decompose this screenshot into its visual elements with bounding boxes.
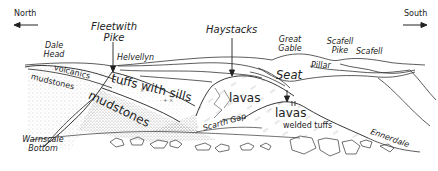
warnscale-bottom-label-line2: Bottom bbox=[18, 145, 68, 153]
north-label: North bbox=[14, 10, 36, 18]
warnscale-bottom-label-line1: Warnscale bbox=[18, 136, 68, 144]
dale-head-label-line2: Head bbox=[36, 51, 72, 59]
fleetwith-pike-label-line2: Pike bbox=[88, 33, 140, 43]
seat-label: Seat bbox=[276, 70, 302, 82]
scafell-pike-label-line2: Pike bbox=[320, 47, 360, 55]
scafell-pike-label-line1: Scafell bbox=[320, 38, 360, 46]
south-label: South bbox=[404, 10, 427, 18]
geology-cross-section: + · × + · + × bbox=[0, 0, 438, 171]
seat-lavas-label: lavas bbox=[275, 107, 306, 119]
scafell-label: Scafell bbox=[356, 48, 383, 56]
south-arrow-icon bbox=[403, 23, 427, 28]
fleetwith-pike-label-line1: Fleetwith bbox=[88, 22, 140, 32]
haystacks-lavas-label: lavas bbox=[229, 92, 260, 104]
great-gable-label-line1: Great bbox=[270, 36, 310, 44]
north-arrow-icon bbox=[14, 23, 38, 28]
haystacks-label: Haystacks bbox=[206, 25, 257, 35]
great-gable-label-line2: Gable bbox=[270, 45, 310, 53]
welded-tuffs-label: welded tuffs bbox=[283, 122, 332, 130]
dale-head-label-line1: Dale bbox=[36, 42, 72, 50]
helvellyn-label: Helvellyn bbox=[117, 54, 154, 62]
pillar-label: Pillar bbox=[311, 62, 331, 70]
fleetwith-pike-pointer-icon bbox=[111, 42, 116, 72]
